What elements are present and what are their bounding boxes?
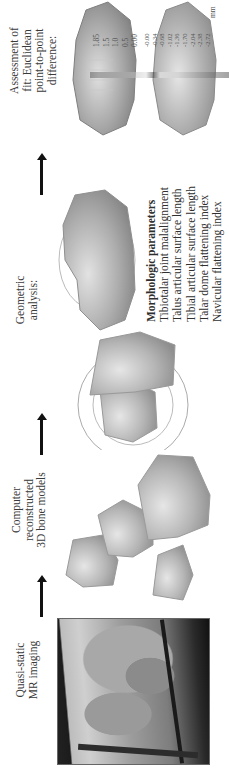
scale-tick: -1.70 — [181, 19, 189, 47]
label-line: Computer — [10, 455, 23, 565]
fit-assessment-label: Assessment of fit: Euclidean point-to-po… — [8, 3, 58, 118]
mr-imaging-label: Quasi-static MR imaging — [14, 615, 39, 725]
scale-positive-ticks: 1.85 1.5 1.0 0.5 0.00 — [92, 19, 140, 47]
scale-tick: -2.38 — [196, 19, 204, 47]
morphologic-item: Talus articular surface length — [171, 186, 184, 322]
scale-unit: mm — [208, 6, 217, 18]
arrow-right-icon — [40, 159, 43, 195]
scale-tick: 1.5 — [102, 19, 112, 47]
scale-negative-ticks: -0.00 -0.34 -0.68 -1.02 -1.36 -1.70 -2.0… — [143, 19, 211, 47]
scale-gradient — [90, 68, 229, 80]
scale-tick: 1.0 — [111, 19, 121, 47]
label-line: point-to-point — [33, 3, 46, 118]
label-line: fit: Euclidean — [21, 3, 34, 118]
scale-tick: -0.68 — [158, 19, 166, 47]
arrow-right-icon — [40, 581, 43, 617]
scale-tick: -1.36 — [173, 19, 181, 47]
morphologic-item: Talar dome flattening index — [198, 186, 211, 322]
mr-dark-band — [160, 619, 184, 763]
talus-geometric-model — [55, 320, 205, 450]
label-line: Assessment of — [8, 3, 21, 118]
label-line: Quasi-static — [14, 615, 27, 725]
scale-tick: 1.85 — [92, 19, 102, 47]
bone-models-label: Computer reconstructed 3D bone models — [10, 455, 48, 565]
scale-tick: 0.5 — [121, 19, 131, 47]
foot-bone-model — [58, 445, 223, 615]
morphologic-title: Morphologic parameters — [145, 186, 158, 322]
mr-image — [57, 618, 210, 765]
scale-tick: -2.72 — [204, 19, 212, 47]
scale-tick: -1.02 — [166, 19, 174, 47]
label-line: reconstructed — [23, 455, 36, 565]
label-line: Geometric — [14, 260, 27, 340]
label-line: 3D bone models — [35, 455, 48, 565]
scale-tick: -0.34 — [151, 19, 159, 47]
scale-tick: 0.00 — [130, 19, 140, 47]
morphologic-item: Tibial articular surface length — [185, 186, 198, 322]
morphologic-item: Navicular flattening index — [211, 186, 224, 322]
scale-tick: -2.04 — [189, 19, 197, 47]
label-line: difference: — [46, 3, 59, 118]
label-line: MR imaging — [27, 615, 40, 725]
morphologic-item: Tibiotalar joint malalignment — [158, 186, 171, 322]
label-line: analysis: — [27, 260, 40, 340]
geometric-analysis-label: Geometric analysis: — [14, 260, 39, 340]
arrow-right-icon — [40, 419, 43, 455]
scale-tick: -0.00 — [143, 19, 151, 47]
morphologic-parameters: Morphologic parameters Tibiotalar joint … — [145, 186, 224, 322]
talus-navicular-model — [55, 185, 140, 335]
figure-pipeline: Quasi-static MR imaging Computer reconst… — [0, 0, 229, 780]
